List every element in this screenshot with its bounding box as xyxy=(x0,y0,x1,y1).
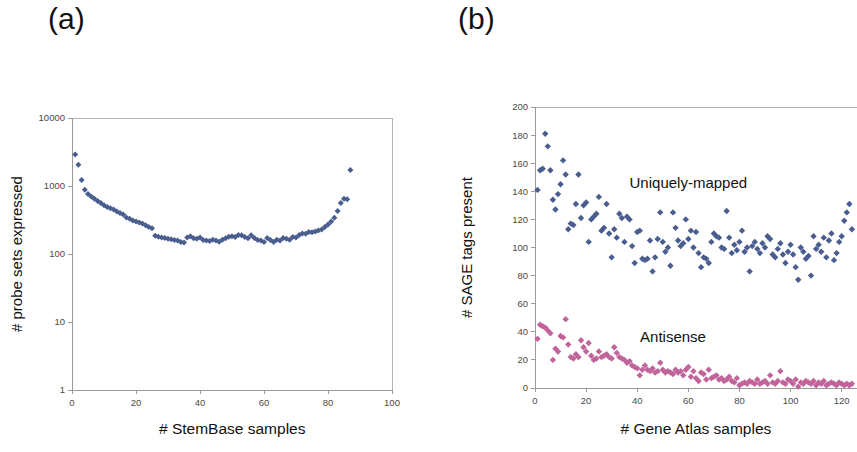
y-tick-label: 180 xyxy=(512,130,528,141)
panel-a-x-axis-title: # StemBase samples xyxy=(159,420,305,438)
data-point xyxy=(780,251,786,257)
data-point xyxy=(542,130,548,136)
panel-a-y-axis-title: # probe sets expressed xyxy=(8,176,25,332)
data-point xyxy=(729,250,735,256)
data-point xyxy=(698,264,704,270)
data-point xyxy=(792,264,798,270)
data-point xyxy=(746,268,752,274)
data-point xyxy=(652,254,658,260)
data-point xyxy=(611,226,617,232)
data-point xyxy=(823,254,829,260)
y-tick-label: 0 xyxy=(523,382,528,393)
data-point xyxy=(849,226,855,232)
y-tick-label: 10 xyxy=(54,316,65,327)
data-point xyxy=(657,209,663,215)
x-tick-label: 60 xyxy=(259,397,270,408)
data-point xyxy=(660,239,666,245)
data-point xyxy=(578,215,584,221)
series-probe-sets-expressed xyxy=(72,152,353,246)
data-point xyxy=(565,341,571,347)
y-tick-label: 60 xyxy=(517,298,528,309)
y-tick-label: 200 xyxy=(512,101,528,112)
data-point xyxy=(631,260,637,266)
data-point xyxy=(808,272,814,278)
data-point xyxy=(675,237,681,243)
data-point xyxy=(708,239,714,245)
data-point xyxy=(767,372,773,378)
data-point xyxy=(338,200,344,206)
x-tick-label: 60 xyxy=(683,395,694,406)
data-point xyxy=(734,247,740,253)
data-point xyxy=(683,216,689,222)
data-point xyxy=(736,239,742,245)
data-point xyxy=(821,234,827,240)
data-point xyxy=(846,201,852,207)
data-point xyxy=(810,233,816,239)
data-point xyxy=(844,209,850,215)
data-point xyxy=(608,254,614,260)
data-point xyxy=(72,152,78,158)
data-point xyxy=(545,143,551,149)
panel-a-plot-area: 110100100010000020406080100 xyxy=(32,112,400,412)
data-point xyxy=(603,201,609,207)
data-point xyxy=(79,177,85,183)
data-point xyxy=(585,340,591,346)
data-point xyxy=(657,360,663,366)
data-point xyxy=(706,367,712,373)
data-point xyxy=(790,251,796,257)
series-uniquely-mapped xyxy=(534,130,855,283)
data-point xyxy=(838,233,844,239)
data-points-group xyxy=(534,130,855,389)
data-point xyxy=(731,241,737,247)
data-point xyxy=(777,368,783,374)
y-tick-label: 100 xyxy=(49,248,65,259)
data-point xyxy=(573,201,579,207)
data-point xyxy=(777,240,783,246)
x-tick-label: 40 xyxy=(195,397,206,408)
data-point xyxy=(596,194,602,200)
x-tick-label: 0 xyxy=(532,395,537,406)
data-point xyxy=(831,257,837,263)
data-point xyxy=(672,225,678,231)
data-points-group xyxy=(72,152,353,246)
x-tick-label: 80 xyxy=(734,395,745,406)
panel-b-y-axis-title: # SAGE tags present xyxy=(458,177,475,318)
data-point xyxy=(75,162,81,168)
series-annotation-antisense: Antisense xyxy=(640,328,706,345)
y-tick-label: 100 xyxy=(512,242,528,253)
data-point xyxy=(836,239,842,245)
x-tick-label: 120 xyxy=(834,395,850,406)
panel-b: (b) # SAGE tags present 0204060801001201… xyxy=(430,0,857,452)
y-tick-label: 120 xyxy=(512,214,528,225)
data-point xyxy=(703,376,709,382)
data-point xyxy=(688,227,694,233)
data-point xyxy=(775,246,781,252)
data-point xyxy=(614,234,620,240)
data-point xyxy=(562,316,568,322)
x-tick-label: 20 xyxy=(581,395,592,406)
data-point xyxy=(562,171,568,177)
panel-b-plot-area: 0204060801001201401601802000204060801001… xyxy=(490,100,857,412)
data-point xyxy=(828,230,834,236)
data-point xyxy=(552,206,558,212)
y-tick-label: 140 xyxy=(512,186,528,197)
data-point xyxy=(826,237,832,243)
data-point xyxy=(841,218,847,224)
data-point xyxy=(550,197,556,203)
data-point xyxy=(629,243,635,249)
y-tick-label: 1 xyxy=(60,384,65,395)
x-tick-label: 40 xyxy=(632,395,643,406)
data-point xyxy=(726,234,732,240)
y-tick-label: 160 xyxy=(512,158,528,169)
data-point xyxy=(575,171,581,177)
x-tick-label: 100 xyxy=(783,395,799,406)
data-point xyxy=(347,167,353,173)
data-point xyxy=(560,157,566,163)
data-point xyxy=(654,236,660,242)
data-point xyxy=(690,368,696,374)
panel-b-x-axis-title: # Gene Atlas samples xyxy=(621,420,772,438)
data-point xyxy=(782,260,788,266)
y-tick-label: 80 xyxy=(517,270,528,281)
data-point xyxy=(578,337,584,343)
data-point xyxy=(335,208,341,214)
